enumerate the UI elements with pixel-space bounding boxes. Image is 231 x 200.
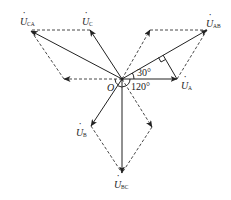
origin-point <box>120 77 123 80</box>
label-uc: · U C <box>82 7 93 27</box>
label-sub: BC <box>121 184 129 190</box>
label-sub: AB <box>213 23 221 29</box>
label-uab: · U AB <box>206 9 221 29</box>
label-sub: B <box>83 132 87 138</box>
label-uca: · U CA <box>20 7 35 27</box>
label-ubc: · U BC <box>114 170 129 190</box>
angle-30-arc <box>132 73 134 79</box>
phasor-uca <box>31 31 122 79</box>
phasor-diagram: O 30° 120° · U A · U AB · U C · U CA · U… <box>0 0 231 200</box>
phasors <box>31 30 207 173</box>
phasor-uc <box>90 30 122 79</box>
label-ua: · U A <box>181 71 192 91</box>
perpendicular-line <box>163 55 177 79</box>
construction-lines <box>31 30 207 173</box>
label-sub: C <box>89 21 93 27</box>
angle-120-label: 120° <box>131 81 150 92</box>
angle-30-label: 30° <box>137 67 151 78</box>
dashed-line <box>91 126 122 173</box>
origin-label: O <box>107 82 114 93</box>
angle-arc <box>115 79 118 85</box>
label-sub: CA <box>27 21 35 27</box>
dashed-line <box>31 31 64 79</box>
dashed-line <box>177 30 207 79</box>
phasor-uab <box>122 30 207 79</box>
label-ub: · U B <box>76 118 87 138</box>
label-sub: A <box>188 85 192 91</box>
dashed-line <box>122 127 152 173</box>
